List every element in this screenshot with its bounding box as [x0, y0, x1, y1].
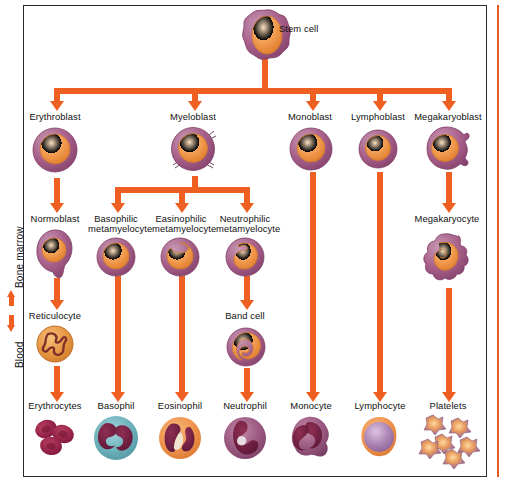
- connector-to-lymphoblast: [377, 88, 383, 102]
- arrowhead-lymphoblast: [373, 101, 387, 111]
- connector-to-easinophilic: [179, 187, 185, 204]
- label-monoblast: Monoblast: [272, 112, 348, 123]
- connector-to-neutrophilic: [244, 187, 250, 204]
- connector-to-monoblast: [310, 88, 316, 102]
- cell-neutrophil: [223, 414, 267, 462]
- label-platelets: Platelets: [420, 401, 476, 412]
- bone-marrow-direction-arrow: [7, 290, 16, 307]
- hematopoiesis-diagram: Bone marrow Blood: [0, 0, 506, 495]
- label-neutrophilic-metamyelocyte: Neutrophilic metamyelocyte: [216, 214, 274, 234]
- cell-stem-cell: [238, 8, 294, 64]
- label-lymphocyte: Lymphocyte: [349, 401, 411, 412]
- label-reticulocyte: Reticulocyte: [18, 311, 92, 322]
- blood-direction-arrow: [7, 315, 16, 332]
- label-neutrophil: Neutrophil: [214, 401, 276, 412]
- cell-easinophilic-metamyelocyte: [160, 236, 200, 278]
- connector-bandcell-neutrophil: [244, 368, 250, 394]
- arrowhead-myeloblast: [188, 101, 202, 111]
- arrowhead-easinophilic: [175, 203, 189, 213]
- arrowhead-monoblast: [306, 101, 320, 111]
- label-normoblast: Normoblast: [16, 214, 94, 225]
- cell-reticulocyte: [36, 324, 74, 364]
- arrowhead-basophilic: [111, 203, 125, 213]
- arrowhead-megakaryocyte: [442, 203, 456, 213]
- connector-lymphoblast-lymphocyte: [377, 172, 383, 394]
- label-basophilic-metamyelocyte: Basophilic metamyelocyte: [88, 214, 144, 234]
- axis-label-bone-marrow: Bone marrow: [14, 226, 25, 288]
- connector-normoblast-reticulocyte: [54, 278, 60, 302]
- arrowhead-band-cell: [240, 300, 254, 310]
- arrowhead-megakaryoblast: [442, 101, 456, 111]
- cell-megakaryocyte: [422, 232, 472, 288]
- arrowhead-normoblast: [50, 203, 64, 213]
- cell-normoblast: [34, 228, 76, 280]
- cell-megakaryoblast: [425, 126, 471, 172]
- connector-to-myeloblast: [192, 88, 198, 102]
- label-stem-cell: Stem cell: [279, 24, 318, 35]
- cell-erythrocytes: [32, 414, 80, 462]
- arrowhead-erythroblast: [50, 101, 64, 111]
- cell-basophilic-metamyelocyte: [96, 236, 136, 278]
- connector-to-erythroblast: [54, 88, 60, 102]
- cell-eosinophil: [158, 414, 202, 462]
- connector-blast-bus: [54, 88, 452, 94]
- label-monocyte: Monocyte: [283, 401, 339, 412]
- cell-monocyte: [288, 414, 334, 462]
- cell-platelets: [418, 412, 480, 468]
- connector-basophilic-basophil: [115, 276, 121, 394]
- label-easinophilic-metamyelocyte: Easinophilic metamyelocyte: [152, 214, 210, 234]
- arrowhead-neutrophilic: [240, 203, 254, 213]
- connector-neutrophilic-bandcell: [244, 276, 250, 302]
- label-megakaryoblast: Megakaryoblast: [409, 112, 487, 123]
- cell-band-cell: [226, 326, 266, 368]
- connector-megakaryoblast-megakaryocyte: [446, 172, 452, 205]
- arrowhead-reticulocyte: [50, 300, 64, 310]
- cell-basophil: [93, 414, 139, 462]
- cell-monoblast: [289, 126, 333, 172]
- cell-lymphoblast: [358, 128, 398, 170]
- label-basophil: Basophil: [86, 401, 146, 412]
- connector-erythroblast-normoblast: [54, 178, 60, 205]
- cell-lymphocyte: [357, 414, 401, 462]
- connector-to-basophilic: [115, 187, 121, 204]
- label-band-cell: Band cell: [213, 311, 277, 322]
- connector-megakaryocyte-platelets: [446, 288, 452, 394]
- right-accent-rule: [497, 5, 499, 477]
- label-megakaryocyte: Megakaryocyte: [410, 214, 484, 225]
- cell-neutrophilic-metamyelocyte: [225, 236, 265, 278]
- connector-easinophilic-eosinophil: [179, 276, 185, 394]
- label-erythrocytes: Erythrocytes: [16, 401, 94, 412]
- label-myeloblast: Myeloblast: [152, 112, 234, 123]
- connector-to-megakaryoblast: [446, 88, 452, 102]
- cell-erythroblast: [32, 126, 78, 174]
- label-eosinophil: Eosinophil: [150, 401, 210, 412]
- axis-label-blood: Blood: [14, 341, 25, 368]
- connector-reticulocyte-erythrocytes: [54, 366, 60, 394]
- label-lymphoblast: Lymphoblast: [343, 112, 413, 123]
- label-erythroblast: Erythroblast: [14, 112, 96, 123]
- connector-monoblast-monocyte: [310, 172, 316, 394]
- cell-myeloblast: [170, 126, 218, 174]
